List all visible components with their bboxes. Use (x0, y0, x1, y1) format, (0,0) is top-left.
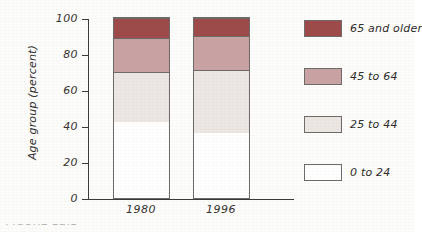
y-tick-label-0: 0 (36, 192, 78, 205)
legend-item-0-to-24[interactable]: 0 to 24 (304, 164, 390, 181)
bar-segment-1996-0-to-24[interactable] (194, 133, 249, 198)
bar-segment-1980-0-to-24[interactable] (114, 122, 169, 198)
legend-item-45-to-64[interactable]: 45 to 64 (304, 68, 398, 85)
legend-label-25-to-44: 25 to 44 (350, 118, 398, 131)
legend-label-0-to-24: 0 to 24 (350, 166, 390, 179)
x-axis-label-1980: 1980 (101, 203, 181, 216)
y-axis-line (88, 19, 89, 200)
figure-caption-cropped: FIGURE 12.1 (0, 224, 414, 232)
bar-1996[interactable] (193, 17, 250, 199)
legend-label-65-and-older: 65 and older (350, 22, 422, 35)
legend-swatch-25-to-44 (304, 116, 342, 133)
y-tick-mark (82, 127, 89, 128)
y-tick-label-100: 100 (36, 12, 78, 25)
y-axis-title: Age group (percent) (26, 23, 39, 183)
bar-segment-1980-45-to-64[interactable] (114, 38, 169, 72)
chart-legend: 65 and older45 to 6425 to 440 to 24 (300, 0, 414, 215)
legend-swatch-45-to-64 (304, 68, 342, 85)
bar-segment-1980-25-to-44[interactable] (114, 72, 169, 122)
figure-caption-text: FIGURE 12.1 (6, 224, 78, 228)
bar-segment-1996-45-to-64[interactable] (194, 36, 249, 70)
y-tick-label-60: 60 (36, 84, 78, 97)
y-tick-mark (82, 199, 89, 200)
x-axis-label-1996: 1996 (181, 203, 261, 216)
legend-label-45-to-64: 45 to 64 (350, 70, 398, 83)
legend-swatch-0-to-24 (304, 164, 342, 181)
bar-1980[interactable] (113, 17, 170, 199)
bar-segment-1996-25-to-44[interactable] (194, 70, 249, 133)
y-tick-mark (82, 91, 89, 92)
plot-area: 100806040200 Age group (percent) 1980 19… (0, 0, 300, 215)
y-tick-label-20: 20 (36, 156, 78, 169)
y-tick-label-80: 80 (36, 48, 78, 61)
y-tick-label-40: 40 (36, 120, 78, 133)
x-axis-line (88, 199, 294, 200)
y-tick-mark (82, 163, 89, 164)
legend-item-65-and-older[interactable]: 65 and older (304, 20, 422, 37)
legend-swatch-65-and-older (304, 20, 342, 37)
y-tick-mark (82, 19, 89, 20)
bar-segment-1996-65-and-older[interactable] (194, 18, 249, 36)
legend-item-25-to-44[interactable]: 25 to 44 (304, 116, 398, 133)
bar-segment-1980-65-and-older[interactable] (114, 18, 169, 38)
y-tick-mark (82, 55, 89, 56)
